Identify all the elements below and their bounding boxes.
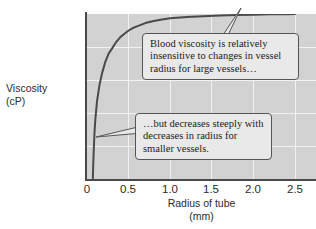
annotation-large-vessels-text: Blood viscosity is relatively insensitiv…	[150, 38, 281, 74]
annotation-small-vessels-text: …but decreases steeply with decreases in…	[143, 118, 263, 154]
x-tick-label-2-5: 2.5	[275, 183, 315, 195]
x-tick-label-0-5: 0.5	[108, 183, 148, 195]
x-tick-label-2-0: 2.0	[233, 183, 273, 195]
y-axis-title: Viscosity (cP)	[6, 82, 47, 108]
x-tick-label-0: 0	[67, 183, 107, 195]
y-axis-line	[85, 12, 87, 181]
y-axis-title-text: Viscosity	[6, 82, 47, 95]
annotation-large-vessels: Blood viscosity is relatively insensitiv…	[142, 33, 299, 80]
x-axis-title-units: (mm)	[87, 210, 316, 223]
annotation-small-vessels: …but decreases steeply with decreases in…	[135, 113, 272, 160]
y-axis-title-units: (cP)	[6, 95, 47, 108]
x-axis-line	[85, 179, 316, 181]
x-tick-label-1-5: 1.5	[191, 183, 231, 195]
viscosity-vs-radius-chart: Viscosity (cP) 3.0 2.8 2.6 2.4 2.2 2.0 0…	[0, 0, 316, 229]
x-axis-title-text: Radius of tube	[87, 197, 316, 210]
x-axis-title: Radius of tube (mm)	[87, 197, 316, 223]
x-tick-label-1-0: 1.0	[150, 183, 190, 195]
